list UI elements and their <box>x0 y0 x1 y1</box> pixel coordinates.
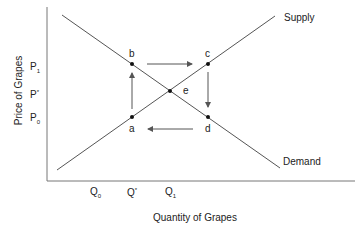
point-b <box>130 62 134 66</box>
price-tick-p0: P0 <box>30 113 40 125</box>
supply-demand-chart <box>0 0 358 230</box>
point-d <box>206 115 210 119</box>
point-label-e: e <box>183 86 189 96</box>
point-label-d: d <box>205 124 211 134</box>
price-tick-pstar: P* <box>30 89 39 100</box>
x-axis-label: Quantity of Grapes <box>153 213 237 223</box>
point-e <box>168 89 172 93</box>
quantity-tick-q1: Q1 <box>165 187 176 199</box>
supply-curve <box>57 16 275 170</box>
point-label-a: a <box>129 124 135 134</box>
point-label-b: b <box>129 49 135 59</box>
y-axis-label: Price of Grapes <box>13 51 24 131</box>
quantity-tick-q0: Q0 <box>90 187 101 199</box>
supply-label: Supply <box>284 13 315 23</box>
price-tick-p1: P1 <box>30 62 40 74</box>
point-a <box>130 115 134 119</box>
quantity-tick-qstar: Q* <box>127 187 137 198</box>
point-label-c: c <box>205 49 210 59</box>
point-c <box>206 62 210 66</box>
demand-label: Demand <box>283 157 321 167</box>
